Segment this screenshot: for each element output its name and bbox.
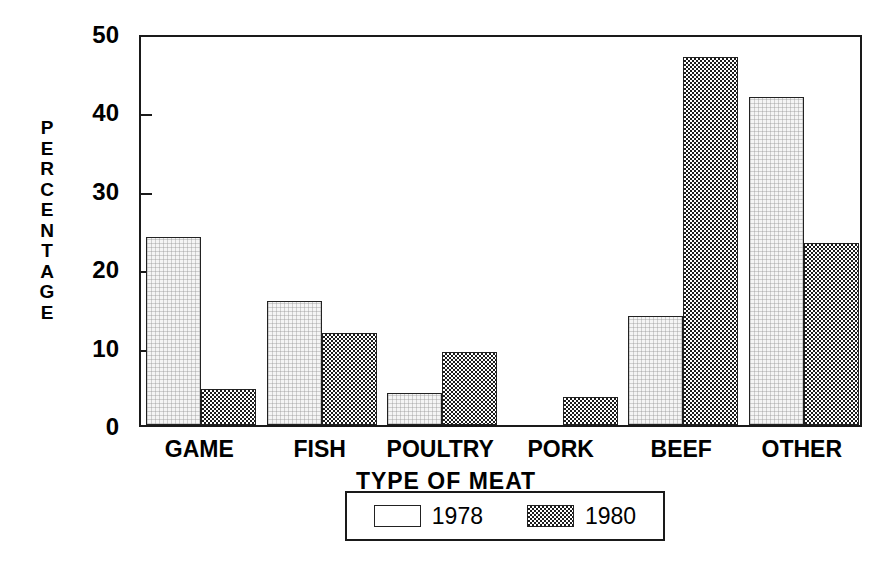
- legend-swatch-1978: [374, 505, 421, 527]
- legend-label-1980: 1980: [585, 505, 636, 528]
- y-axis-title-letter: C: [40, 180, 54, 201]
- bar-poultry-1980: [442, 352, 497, 425]
- bar-fish-1980: [322, 333, 377, 426]
- bar-game-1978: [146, 237, 201, 425]
- y-axis-title-letter: E: [41, 303, 54, 324]
- bars-layer: [141, 37, 860, 425]
- y-axis-title-letter: E: [41, 200, 54, 221]
- y-axis-tick-label: 40: [71, 101, 119, 125]
- y-axis-title-letter: N: [40, 221, 54, 242]
- y-axis-tick-label: 20: [71, 258, 119, 282]
- bar-chart: PERCENTAGE 01020304050 GAMEFISHPOULTRYPO…: [0, 0, 892, 585]
- bar-beef-1978: [628, 316, 683, 425]
- legend-swatch-1980: [527, 505, 574, 527]
- y-axis-tick-label: 50: [71, 23, 119, 47]
- y-axis-title-letter: T: [41, 241, 53, 262]
- y-axis-title-letter: P: [41, 118, 54, 139]
- y-axis-title-letter: R: [40, 159, 54, 180]
- y-axis-title-letter: A: [40, 262, 54, 283]
- bar-fish-1978: [267, 301, 322, 425]
- bar-beef-1980: [683, 57, 738, 425]
- plot-area: [139, 35, 862, 427]
- bar-other-1980: [804, 243, 859, 425]
- legend-label-1978: 1978: [432, 505, 483, 528]
- bar-other-1978: [749, 97, 804, 425]
- bar-poultry-1978: [387, 393, 442, 425]
- bar-pork-1980: [563, 397, 618, 425]
- y-axis-title: PERCENTAGE: [34, 118, 60, 323]
- legend-entry-1980: 1980: [527, 505, 636, 528]
- legend: 19781980: [345, 491, 665, 541]
- legend-entry-1978: 1978: [374, 505, 483, 528]
- y-axis-tick-label: 30: [71, 180, 119, 204]
- y-axis-tick-label: 10: [71, 337, 119, 361]
- y-axis-title-letter: G: [40, 282, 55, 303]
- x-axis-tick-label: OTHER: [712, 436, 892, 462]
- y-axis-title-letter: E: [41, 139, 54, 160]
- bar-game-1980: [201, 389, 256, 425]
